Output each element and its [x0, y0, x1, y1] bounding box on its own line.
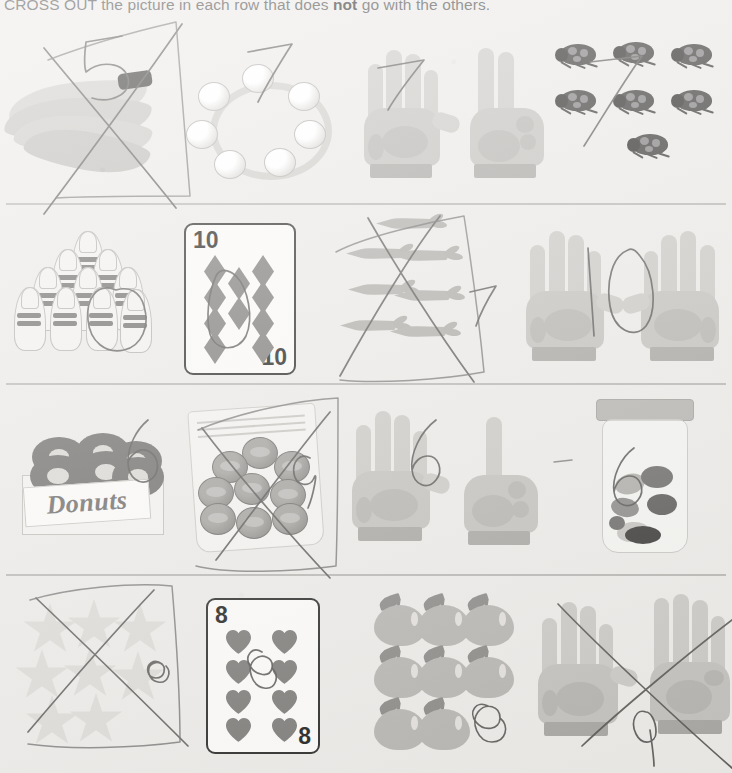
- hand-two-fingers: [454, 42, 550, 192]
- picture-hands-nine[interactable]: [524, 576, 732, 773]
- worksheet-row-3: Donuts: [0, 385, 732, 575]
- row-divider-2: [6, 383, 726, 385]
- picture-card-ten-diamonds[interactable]: 10 10: [178, 205, 328, 384]
- hand-one-finger: [450, 411, 546, 561]
- picture-card-eight-hearts[interactable]: 8 8: [196, 576, 342, 773]
- hand-open-right: [630, 225, 726, 375]
- card-corner-value-top: 8: [215, 602, 228, 629]
- picture-candy-jar[interactable]: [556, 385, 732, 575]
- worksheet-row-4: 8 8: [0, 576, 732, 773]
- picture-apples[interactable]: [342, 576, 524, 773]
- hand-open-five: [342, 405, 438, 555]
- card-corner-value-top: 10: [193, 227, 219, 254]
- row-divider-1: [6, 203, 726, 205]
- instruction-suffix: go with the others.: [357, 0, 490, 13]
- instruction-prefix: CROSS OUT the picture in each row that d…: [4, 0, 333, 13]
- hand-open-left: [528, 596, 624, 746]
- hand-open-five: [352, 42, 448, 192]
- worksheet-row-1: [0, 20, 732, 204]
- picture-stars[interactable]: [0, 576, 196, 773]
- hand-open-left: [516, 225, 612, 375]
- row-divider-3: [6, 574, 726, 576]
- picture-bowling-pins[interactable]: [0, 205, 178, 384]
- picture-bead-necklace[interactable]: [182, 20, 350, 204]
- worksheet-instruction: CROSS OUT the picture in each row that d…: [4, 0, 728, 16]
- picture-ladybugs[interactable]: [540, 20, 732, 204]
- card-corner-value-bottom: 8: [298, 723, 311, 750]
- picture-donut-box[interactable]: Donuts: [0, 385, 178, 575]
- picture-hands-seven[interactable]: [350, 20, 540, 204]
- picture-hands-ten[interactable]: [508, 205, 732, 384]
- banana-stem: [117, 70, 153, 91]
- instruction-emphasis: not: [333, 0, 357, 13]
- hand-four-fingers: [636, 594, 732, 744]
- worksheet-row-2: 10 10: [0, 205, 732, 384]
- picture-carrots[interactable]: [328, 205, 508, 384]
- picture-coin-bag[interactable]: [178, 385, 338, 575]
- picture-hands-six[interactable]: [338, 385, 556, 575]
- picture-bananas[interactable]: [0, 20, 182, 204]
